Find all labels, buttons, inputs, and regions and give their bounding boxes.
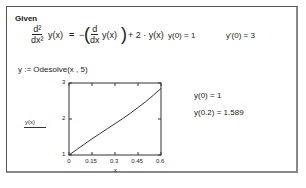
result-y0[interactable]: y(0) = 1 (194, 91, 221, 100)
y-axis-label-underline (24, 127, 46, 128)
series-line-y (69, 88, 161, 155)
y-tick-label: 3 (62, 79, 65, 85)
y-axis-label: y(x) (25, 119, 35, 125)
result-y02[interactable]: y(0.2) = 1.589 (194, 108, 244, 117)
x-tick-label: 0.3 (110, 158, 118, 164)
plot-svg (0, 0, 306, 188)
x-tick-label: 0.45 (131, 158, 143, 164)
plot-frame (69, 83, 161, 155)
x-tick-label: 0.6 (156, 158, 164, 164)
x-tick-label: 0.15 (85, 158, 97, 164)
y-tick-label: 2 (62, 115, 65, 121)
y-tick-label: 1 (62, 151, 65, 157)
x-tick-label: 0 (67, 158, 70, 164)
x-axis-label: x (114, 167, 117, 173)
